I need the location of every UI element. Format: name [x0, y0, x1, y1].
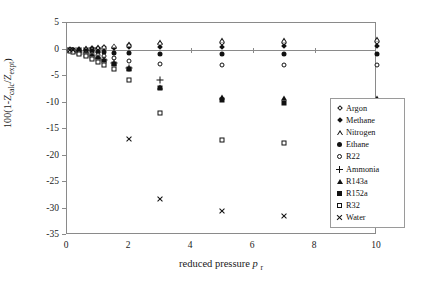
data-point — [111, 50, 116, 55]
legend-marker — [334, 212, 345, 223]
y-tick-label: -10 — [0, 97, 66, 107]
x-axis-title-text: reduced pressure — [179, 258, 252, 269]
filled-square-marker-icon — [282, 100, 287, 105]
open-square-marker-icon — [102, 62, 107, 67]
legend-item[interactable]: Ammonia — [334, 163, 401, 175]
legend-item-label: Nitrogen — [345, 128, 376, 137]
legend-item[interactable]: R143a — [334, 175, 401, 187]
data-point — [374, 37, 380, 42]
open-square-marker-icon — [158, 111, 163, 116]
legend-item-label: Water — [345, 213, 366, 222]
legend-item[interactable]: Nitrogen — [334, 126, 401, 138]
data-point — [282, 140, 287, 145]
data-point — [96, 60, 101, 65]
plus-marker-icon — [157, 76, 164, 83]
data-point — [89, 57, 94, 62]
data-point — [220, 45, 224, 49]
data-point — [282, 100, 287, 105]
data-point — [157, 76, 164, 83]
open-square-marker-icon — [89, 57, 94, 62]
data-point — [219, 208, 226, 215]
filled-diamond-marker-icon — [281, 43, 287, 49]
open-triangle-marker-icon — [157, 40, 163, 45]
legend-marker — [334, 176, 345, 187]
cross-marker-icon — [157, 195, 164, 202]
x-tick-label: 6 — [250, 240, 255, 250]
cross-marker-icon — [281, 212, 288, 219]
y-tick-label: -15 — [0, 123, 66, 133]
y-axis-title-slash: / — [2, 80, 13, 83]
legend-item-label: R152a — [345, 189, 368, 198]
legend-marker — [334, 115, 345, 126]
data-point — [282, 51, 287, 56]
y-axis-title: 100(1-Zcalc/Zexpt) — [2, 58, 16, 128]
y-tick-label: -25 — [0, 176, 66, 186]
data-point — [126, 135, 133, 142]
legend-item-label: Argon — [345, 104, 367, 113]
legend-item-label: Ethane — [345, 140, 369, 149]
data-point — [219, 38, 225, 43]
filled-square-marker-icon — [337, 191, 342, 196]
legend-item[interactable]: Argon — [334, 102, 401, 114]
legend-item[interactable]: Ethane — [334, 139, 401, 151]
x-tick-label: 0 — [64, 240, 69, 250]
data-point — [158, 51, 163, 56]
open-triangle-marker-icon — [126, 42, 132, 47]
legend-marker — [334, 200, 345, 211]
data-point — [95, 46, 102, 53]
data-point — [111, 43, 117, 48]
data-point — [83, 54, 88, 59]
data-point — [127, 51, 132, 56]
data-point — [158, 111, 163, 116]
open-square-marker-icon — [220, 138, 225, 143]
open-circle-marker-icon — [220, 62, 225, 67]
data-point — [157, 40, 163, 45]
data-point — [220, 138, 225, 143]
data-point — [281, 212, 288, 219]
open-square-marker-icon — [337, 203, 342, 208]
x-tick-label: 4 — [188, 240, 193, 250]
open-square-marker-icon — [96, 60, 101, 65]
legend-item[interactable]: R22 — [334, 151, 401, 163]
data-point — [375, 51, 380, 56]
open-triangle-marker-icon — [111, 43, 117, 48]
filled-circle-marker-icon — [337, 142, 342, 147]
filled-circle-marker-icon — [375, 51, 380, 56]
legend-item[interactable]: Methane — [334, 114, 401, 126]
y-tick-label: -30 — [0, 203, 66, 213]
data-point — [102, 62, 107, 67]
data-point — [375, 44, 379, 48]
open-circle-marker-icon — [375, 63, 380, 68]
data-point — [157, 195, 164, 202]
chart-figure: 100(1-Zcalc/Zexpt) reduced pressure p r … — [0, 0, 442, 289]
legend-item[interactable]: R32 — [334, 200, 401, 212]
legend-item[interactable]: R152a — [334, 187, 401, 199]
data-point — [101, 44, 107, 49]
data-point — [220, 51, 225, 56]
x-tick-label: 10 — [371, 240, 381, 250]
data-point — [282, 44, 286, 48]
legend-item[interactable]: Water — [334, 212, 401, 224]
data-point — [126, 42, 132, 47]
filled-circle-marker-icon — [158, 51, 163, 56]
open-circle-marker-icon — [158, 61, 163, 66]
x-axis-title-sub: r — [260, 263, 263, 272]
open-circle-marker-icon — [282, 63, 287, 68]
y-tick-label: -35 — [0, 229, 66, 239]
data-point — [127, 58, 132, 63]
open-triangle-marker-icon — [337, 130, 343, 135]
open-circle-marker-icon — [127, 58, 132, 63]
legend-item-label: Ammonia — [345, 165, 379, 174]
filled-diamond-marker-icon — [219, 44, 225, 50]
data-point — [158, 61, 163, 66]
y-tick-mark — [62, 234, 66, 235]
data-point — [220, 97, 225, 102]
data-point — [281, 37, 287, 42]
x-axis-inner-tick — [191, 48, 192, 53]
filled-diamond-marker-icon — [157, 44, 163, 50]
open-square-marker-icon — [83, 54, 88, 59]
open-triangle-marker-icon — [374, 37, 380, 42]
data-point — [111, 67, 116, 72]
data-point — [127, 66, 132, 71]
y-tick-label: 0 — [0, 44, 66, 54]
